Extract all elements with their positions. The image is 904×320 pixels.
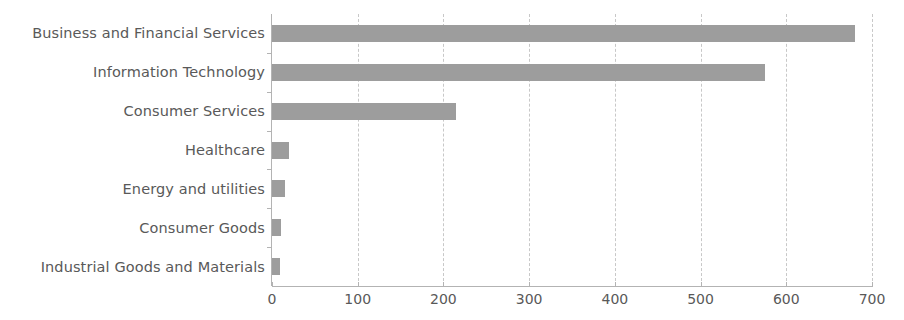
plot-area: [272, 14, 872, 286]
x-axis-tick: [272, 282, 273, 287]
y-axis-tick: [267, 208, 271, 209]
bar[interactable]: [272, 219, 281, 236]
gridline-700: [872, 14, 873, 286]
x-axis-tick-label: 700: [859, 292, 886, 306]
y-axis-category-labels: Business and Financial ServicesInformati…: [0, 0, 265, 320]
x-axis-line: [272, 286, 873, 287]
y-axis-tick: [267, 131, 271, 132]
y-axis-tick-label: Consumer Goods: [0, 221, 265, 236]
bar[interactable]: [272, 64, 765, 81]
x-axis-tick-label: 0: [268, 292, 277, 306]
x-axis-tick: [443, 282, 444, 287]
y-axis-tick: [267, 92, 271, 93]
y-axis-tick-label: Industrial Goods and Materials: [0, 260, 265, 275]
y-axis-tick: [267, 247, 271, 248]
y-axis-line: [271, 14, 272, 286]
x-axis-tick-label: 200: [430, 292, 457, 306]
bar[interactable]: [272, 180, 285, 197]
y-axis-tick: [267, 169, 271, 170]
x-axis-tick: [786, 282, 787, 287]
bar[interactable]: [272, 142, 289, 159]
x-axis-tick: [872, 282, 873, 287]
x-axis-tick-label: 400: [601, 292, 628, 306]
x-axis-tick: [529, 282, 530, 287]
y-axis-tick: [267, 53, 271, 54]
x-axis-tick: [615, 282, 616, 287]
y-axis-tick-label: Information Technology: [0, 65, 265, 80]
gridline-200: [443, 14, 444, 286]
y-axis-tick-label: Energy and utilities: [0, 182, 265, 197]
bar[interactable]: [272, 258, 280, 275]
gridline-400: [615, 14, 616, 286]
gridline-600: [786, 14, 787, 286]
x-axis-tick: [701, 282, 702, 287]
y-axis-tick-label: Consumer Services: [0, 104, 265, 119]
bar[interactable]: [272, 25, 855, 42]
bar-chart: Business and Financial ServicesInformati…: [0, 0, 904, 320]
x-axis-tick-label: 300: [516, 292, 543, 306]
bar[interactable]: [272, 103, 456, 120]
x-axis-tick-label: 500: [687, 292, 714, 306]
y-axis-tick-label: Business and Financial Services: [0, 26, 265, 41]
y-axis-tick-label: Healthcare: [0, 143, 265, 158]
gridline-100: [358, 14, 359, 286]
x-axis-tick-label: 600: [773, 292, 800, 306]
x-axis-tick: [358, 282, 359, 287]
x-axis-tick-label: 100: [344, 292, 371, 306]
gridline-500: [701, 14, 702, 286]
gridline-300: [529, 14, 530, 286]
